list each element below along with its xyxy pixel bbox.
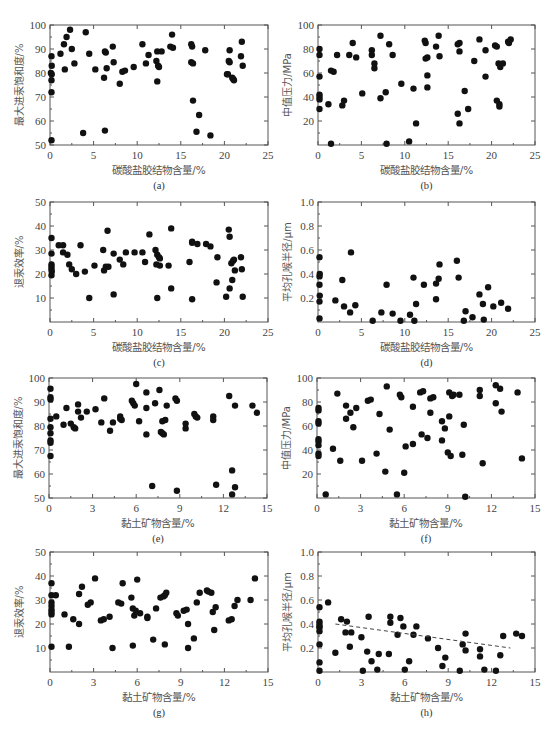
data-points [47, 381, 260, 498]
data-point [421, 282, 427, 288]
data-point [481, 316, 487, 322]
data-point [101, 395, 107, 401]
data-point [406, 138, 412, 144]
data-point [57, 51, 63, 57]
data-point [435, 645, 441, 651]
data-point [514, 389, 520, 395]
data-point [471, 58, 477, 64]
data-point [239, 39, 245, 45]
data-point [154, 78, 160, 84]
data-point [316, 628, 322, 634]
data-point [377, 95, 383, 101]
data-point [477, 646, 483, 652]
y-tick-label: 100 [29, 372, 46, 384]
data-point [48, 644, 54, 650]
data-point [118, 600, 124, 606]
data-point [389, 52, 395, 58]
data-point [213, 482, 219, 488]
data-point [382, 468, 388, 474]
data-point [455, 111, 461, 117]
data-point [47, 386, 53, 392]
data-point [350, 424, 356, 430]
data-point [315, 453, 321, 459]
data-point [157, 255, 163, 261]
panel-caption: (g) [153, 707, 166, 719]
data-point [325, 599, 331, 605]
data-point [100, 247, 106, 253]
x-tick-label: 3 [91, 676, 97, 688]
data-point [334, 52, 340, 58]
x-tick-label: 25 [530, 149, 542, 161]
data-point [75, 408, 81, 414]
y-tick-label: 80 [303, 43, 315, 55]
panel-caption: (h) [420, 707, 433, 719]
data-point [48, 235, 54, 241]
chart-g: 036912151020304050黏土矿物含量/%退汞效率/%(g) [0, 540, 278, 720]
data-point [84, 408, 90, 414]
data-point [76, 621, 82, 627]
data-point [122, 67, 128, 73]
data-point [446, 413, 452, 419]
data-point [183, 606, 189, 612]
data-point [456, 48, 462, 54]
data-points [48, 27, 246, 144]
data-point [316, 96, 322, 102]
data-point [78, 414, 84, 420]
x-tick-label: 0 [47, 676, 53, 688]
data-point [48, 53, 54, 59]
data-point [231, 77, 237, 83]
data-point [144, 615, 150, 621]
y-tick-label: 20 [303, 115, 315, 127]
data-point [337, 458, 343, 464]
data-point [330, 446, 336, 452]
data-point [402, 666, 408, 672]
data-point [342, 629, 348, 635]
data-point [397, 318, 403, 324]
data-point [226, 234, 232, 240]
x-tick-label: 12 [218, 502, 229, 514]
y-tick-label: 1.0 [300, 196, 314, 208]
data-point [462, 308, 468, 314]
x-axis-label: 碳酸盐胶结物含量/% [380, 341, 474, 353]
x-axis-label: 黏土矿物含量/% [122, 691, 196, 703]
data-point [196, 112, 202, 118]
data-point [92, 66, 98, 72]
y-tick-label: 70 [34, 444, 46, 456]
data-point [315, 407, 321, 413]
data-point [439, 437, 445, 443]
data-point [49, 71, 55, 77]
data-point [316, 298, 322, 304]
x-tick-label: 5 [359, 326, 365, 338]
y-axis: 20406080100 [298, 19, 536, 133]
data-point [61, 41, 67, 47]
x-tick-label: 20 [486, 326, 498, 338]
data-point [136, 418, 142, 424]
data-point [240, 294, 246, 300]
data-point [174, 398, 180, 404]
data-point [343, 402, 349, 408]
data-point [98, 419, 104, 425]
data-point [316, 106, 322, 112]
data-point [223, 294, 229, 300]
data-points [48, 575, 258, 651]
data-point [477, 387, 483, 393]
data-point [364, 648, 370, 654]
x-axis: 0510152025 [47, 25, 274, 161]
data-point [359, 458, 365, 464]
data-point [347, 644, 353, 650]
data-point [161, 431, 167, 437]
data-point [413, 623, 419, 629]
x-tick-label: 12 [219, 676, 230, 688]
x-axis: 0510152025 [315, 202, 541, 338]
x-tick-label: 10 [132, 149, 144, 161]
data-point [353, 54, 359, 60]
x-axis-label: 碳酸盐胶结物含量/% [112, 164, 206, 176]
x-tick-label: 9 [177, 502, 183, 514]
data-point [143, 389, 149, 395]
y-axis-label: 最大进汞饱和度/% [13, 44, 25, 127]
data-point [182, 425, 188, 431]
data-point [436, 261, 442, 267]
data-point [92, 406, 98, 412]
y-tick-label: 20 [302, 468, 314, 480]
data-point [455, 274, 461, 280]
